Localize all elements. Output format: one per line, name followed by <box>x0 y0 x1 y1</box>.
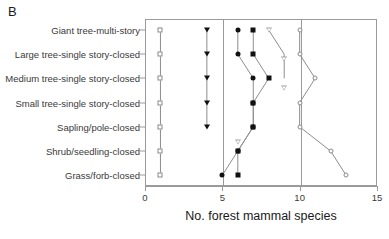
data-point-open-triangle-down <box>235 139 241 144</box>
x-axis-tick-label: 10 <box>294 192 305 203</box>
series-segment <box>300 78 315 102</box>
x-axis-title: No. forest mammal species <box>145 209 377 223</box>
data-point-open-square <box>158 28 163 33</box>
y-axis-label: Small tree-single story-closed <box>15 97 140 108</box>
data-point-filled-triangle-down <box>204 28 210 33</box>
data-point-open-triangle-down <box>266 28 272 33</box>
data-point-filled-circle <box>251 76 256 81</box>
data-point-open-square <box>158 52 163 57</box>
data-point-open-circle <box>344 173 349 178</box>
data-point-open-circle <box>328 149 333 154</box>
series-segment <box>300 127 331 151</box>
x-axis-tick-label: 15 <box>372 192 383 203</box>
series-segment <box>269 30 284 54</box>
data-point-filled-square <box>251 28 256 33</box>
x-axis-tick <box>300 186 301 191</box>
x-axis-tick <box>145 186 146 191</box>
x-axis-tick <box>222 186 223 191</box>
data-point-open-circle <box>297 28 302 33</box>
data-point-filled-triangle-down <box>204 124 210 129</box>
x-axis-tick-label: 0 <box>142 192 147 203</box>
y-axis-label: Giant tree-multi-story <box>51 25 140 36</box>
x-axis-tick-label: 5 <box>220 192 225 203</box>
panel-label: B <box>8 4 17 19</box>
series-segment <box>253 78 268 102</box>
y-axis-label: Large tree-single story-closed <box>15 49 140 60</box>
data-point-filled-triangle-down <box>204 100 210 105</box>
y-axis-label: Shrub/seedling-closed <box>46 146 140 157</box>
data-point-open-circle <box>313 76 318 81</box>
data-point-open-triangle-down <box>281 57 287 62</box>
data-point-filled-square <box>251 124 256 129</box>
data-point-filled-triangle-down <box>204 76 210 81</box>
data-point-filled-circle <box>235 28 240 33</box>
data-point-open-square <box>158 173 163 178</box>
data-point-filled-circle <box>220 173 225 178</box>
series-segment <box>253 54 268 78</box>
data-point-filled-square <box>266 76 271 81</box>
series-segment <box>222 151 237 175</box>
data-point-filled-triangle-down <box>204 52 210 57</box>
data-point-open-circle <box>297 124 302 129</box>
y-axis-label: Sapling/pole-closed <box>57 121 140 132</box>
data-point-filled-circle <box>235 52 240 57</box>
series-segment <box>300 54 315 78</box>
data-series-layer <box>145 19 377 186</box>
data-point-filled-square <box>251 52 256 57</box>
data-point-open-square <box>158 100 163 105</box>
data-point-open-triangle-down <box>281 86 287 91</box>
data-point-filled-square <box>251 100 256 105</box>
data-point-open-square <box>158 76 163 81</box>
data-point-open-circle <box>297 100 302 105</box>
series-segment <box>331 151 346 175</box>
figure-panel-b: B Giant tree-multi-storyLarge tree-singl… <box>0 0 389 239</box>
data-point-open-square <box>158 124 163 129</box>
y-axis-label: Grass/forb-closed <box>65 170 140 181</box>
x-axis-line <box>145 186 377 187</box>
data-point-open-circle <box>297 52 302 57</box>
series-segment <box>238 54 253 78</box>
data-point-filled-square <box>235 173 240 178</box>
data-point-filled-square <box>235 149 240 154</box>
data-point-open-square <box>158 149 163 154</box>
series-connector-lines <box>145 19 377 186</box>
y-axis-label-group: Giant tree-multi-storyLarge tree-single … <box>0 19 140 186</box>
x-axis-tick <box>377 186 378 191</box>
y-axis-label: Medium tree-single story-closed <box>5 73 140 84</box>
